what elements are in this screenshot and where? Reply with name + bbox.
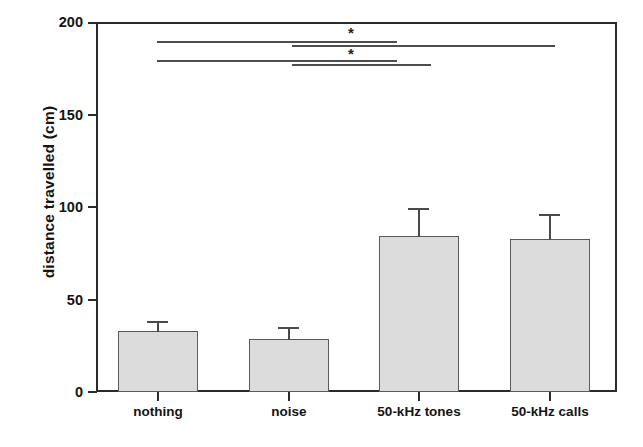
significance-star-1: *: [348, 25, 354, 40]
bar-nothing: [118, 331, 198, 392]
x-tick-mark-50khz-tones: [418, 392, 420, 401]
y-tick-label-50: 50: [35, 293, 83, 308]
errorbar-cap-50khz-tones: [408, 208, 429, 210]
x-tick-mark-noise: [288, 392, 290, 401]
significance-line-2-left: [157, 60, 397, 62]
y-tick-label-150: 150: [35, 108, 83, 123]
y-tick-label-0: 0: [35, 385, 83, 400]
y-tick-label-100: 100: [35, 200, 83, 215]
errorbar-cap-nothing: [147, 321, 168, 323]
errorbar-stem-nothing: [157, 322, 159, 332]
x-tick-label-50khz-calls: 50-kHz calls: [470, 404, 630, 419]
x-tick-mark-50khz-calls: [549, 392, 551, 401]
significance-line-2-right: [292, 64, 431, 66]
errorbar-stem-50khz-calls: [549, 215, 551, 240]
bar-50khz-tones: [379, 236, 459, 392]
errorbar-cap-noise: [278, 327, 299, 329]
y-axis-tick-labels: 0 50 100 150 200: [33, 0, 83, 447]
significance-line-1-left: [157, 41, 397, 43]
errorbar-stem-50khz-tones: [418, 209, 420, 237]
significance-line-1-right: [292, 45, 555, 47]
errorbar-stem-noise: [288, 328, 290, 340]
y-tick-label-200: 200: [35, 15, 83, 30]
errorbar-cap-50khz-calls: [539, 214, 560, 216]
significance-star-2: *: [348, 46, 354, 61]
bar-50khz-calls: [510, 239, 590, 392]
bar-chart-figure: distance travelled (cm) 0 50 100 150 200…: [0, 0, 643, 447]
bar-noise: [249, 339, 329, 392]
x-tick-mark-nothing: [157, 392, 159, 401]
